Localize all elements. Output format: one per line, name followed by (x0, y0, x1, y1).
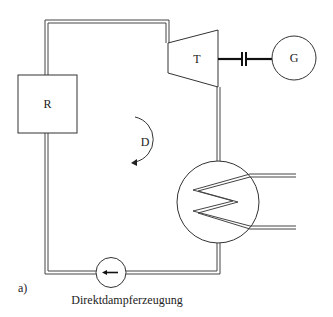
heat-exchanger (177, 161, 296, 243)
pump (96, 258, 126, 288)
flow-direction-label: D (141, 135, 150, 149)
direct-steam-generation-diagram: R T G D (0, 0, 333, 317)
generator-label: G (290, 51, 299, 65)
turbine-label: T (193, 52, 201, 66)
generator: G (272, 36, 316, 80)
flow-direction: D (131, 117, 153, 166)
panel-label: a) (18, 281, 27, 295)
receiver-label: R (43, 97, 51, 111)
shaft-coupling (218, 52, 272, 66)
heat-exchanger-circle (177, 161, 259, 243)
receiver: R (18, 75, 77, 133)
caption: Direktdampferzeugung (71, 293, 182, 307)
turbine: T (168, 30, 218, 87)
